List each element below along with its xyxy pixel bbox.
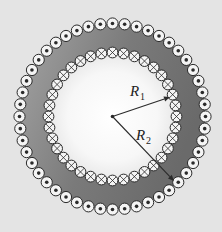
current-out-of-page-icon (71, 25, 82, 36)
current-out-of-page-icon (107, 18, 118, 29)
current-out-of-page-icon (21, 75, 32, 86)
current-into-page-icon (52, 79, 63, 90)
current-out-of-page-icon (193, 75, 204, 86)
current-out-of-page-icon (26, 64, 37, 75)
current-into-page-icon (52, 143, 63, 154)
current-out-of-page-icon (197, 87, 208, 98)
current-out-of-page-icon (26, 157, 37, 168)
current-into-page-icon (107, 47, 118, 58)
current-into-page-icon (44, 122, 55, 133)
current-out-of-page-icon (17, 135, 28, 146)
current-into-page-icon (47, 89, 58, 100)
current-into-page-icon (58, 152, 69, 163)
current-into-page-icon (47, 133, 58, 144)
current-out-of-page-icon (60, 30, 71, 41)
current-into-page-icon (167, 133, 178, 144)
current-into-page-icon (139, 56, 150, 67)
current-out-of-page-icon (17, 87, 28, 98)
diagram-canvas: R 1 R 2 (0, 0, 222, 232)
current-into-page-icon (156, 70, 167, 81)
current-into-page-icon (118, 174, 129, 185)
current-into-page-icon (85, 51, 96, 62)
current-out-of-page-icon (153, 191, 164, 202)
current-out-of-page-icon (131, 21, 142, 32)
current-into-page-icon (43, 111, 54, 122)
current-out-of-page-icon (187, 157, 198, 168)
current-out-of-page-icon (15, 99, 26, 110)
current-out-of-page-icon (95, 203, 106, 214)
current-out-of-page-icon (119, 19, 130, 30)
current-into-page-icon (129, 51, 140, 62)
current-out-of-page-icon (199, 99, 210, 110)
current-out-of-page-icon (83, 21, 94, 32)
current-into-page-icon (163, 143, 174, 154)
current-into-page-icon (148, 160, 159, 171)
current-out-of-page-icon (50, 185, 61, 196)
current-out-of-page-icon (41, 45, 52, 56)
current-into-page-icon (167, 89, 178, 100)
current-out-of-page-icon (200, 111, 211, 122)
current-out-of-page-icon (119, 203, 130, 214)
current-out-of-page-icon (83, 201, 94, 212)
current-out-of-page-icon (164, 185, 175, 196)
current-out-of-page-icon (142, 25, 153, 36)
current-out-of-page-icon (71, 197, 82, 208)
current-into-page-icon (85, 171, 96, 182)
current-out-of-page-icon (50, 37, 61, 48)
current-out-of-page-icon (193, 146, 204, 157)
current-out-of-page-icon (14, 111, 25, 122)
current-into-page-icon (96, 174, 107, 185)
current-out-of-page-icon (153, 30, 164, 41)
current-into-page-icon (171, 111, 182, 122)
current-into-page-icon (96, 48, 107, 59)
current-into-page-icon (44, 100, 55, 111)
current-out-of-page-icon (15, 123, 26, 134)
current-out-of-page-icon (95, 19, 106, 30)
current-out-of-page-icon (131, 201, 142, 212)
current-out-of-page-icon (173, 45, 184, 56)
r1-label-subscript: 1 (140, 91, 145, 102)
current-out-of-page-icon (142, 197, 153, 208)
current-out-of-page-icon (173, 177, 184, 188)
r2-label-subscript: 2 (146, 135, 151, 146)
r1-label-main: R (129, 83, 139, 99)
current-into-page-icon (66, 62, 77, 73)
current-into-page-icon (129, 171, 140, 182)
current-into-page-icon (118, 48, 129, 59)
current-into-page-icon (75, 56, 86, 67)
current-out-of-page-icon (33, 168, 44, 179)
current-out-of-page-icon (197, 135, 208, 146)
current-out-of-page-icon (164, 37, 175, 48)
current-out-of-page-icon (33, 54, 44, 65)
current-into-page-icon (170, 100, 181, 111)
current-into-page-icon (170, 122, 181, 133)
current-out-of-page-icon (41, 177, 52, 188)
coaxial-solenoid-diagram: R 1 R 2 (0, 0, 222, 232)
current-out-of-page-icon (21, 146, 32, 157)
current-out-of-page-icon (187, 64, 198, 75)
current-into-page-icon (139, 167, 150, 178)
r2-label-main: R (135, 127, 145, 143)
current-out-of-page-icon (107, 204, 118, 215)
current-into-page-icon (107, 175, 118, 186)
current-out-of-page-icon (181, 54, 192, 65)
current-out-of-page-icon (199, 123, 210, 134)
current-out-of-page-icon (60, 191, 71, 202)
current-into-page-icon (75, 167, 86, 178)
current-out-of-page-icon (181, 168, 192, 179)
current-into-page-icon (163, 79, 174, 90)
